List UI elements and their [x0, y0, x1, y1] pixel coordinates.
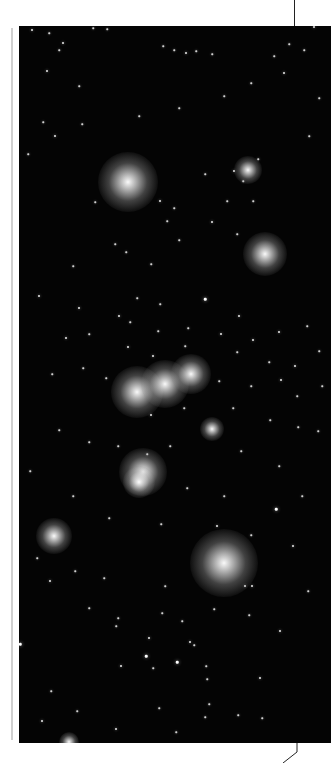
star [82, 367, 84, 369]
star [160, 523, 162, 525]
star [118, 315, 120, 317]
star [238, 315, 240, 317]
star [136, 297, 138, 299]
star [166, 220, 168, 222]
star [62, 42, 64, 44]
star [218, 380, 220, 382]
star [273, 55, 275, 57]
star [280, 379, 282, 381]
star [169, 445, 171, 447]
star [204, 716, 206, 718]
star [250, 385, 252, 387]
star [145, 655, 148, 658]
star [297, 426, 299, 428]
leader-line-top [294, 0, 295, 26]
star [157, 330, 159, 332]
star [72, 265, 74, 267]
star [159, 200, 161, 202]
star [159, 303, 161, 305]
star [19, 643, 21, 646]
bright-star [36, 518, 72, 554]
star [103, 577, 105, 579]
star [184, 345, 186, 347]
star [173, 207, 175, 209]
star [240, 450, 242, 452]
star [138, 115, 140, 117]
bright-star [190, 529, 258, 597]
star [36, 557, 38, 559]
star [175, 731, 177, 733]
star [54, 135, 56, 137]
star [150, 263, 152, 265]
star [318, 97, 320, 99]
star [42, 121, 44, 123]
bright-star [123, 466, 155, 498]
star [164, 585, 166, 587]
star [161, 612, 163, 614]
star [252, 200, 254, 202]
star [114, 243, 116, 245]
star [46, 70, 48, 72]
star [88, 441, 90, 443]
star [204, 173, 206, 175]
star [78, 85, 80, 87]
star [120, 665, 122, 667]
star [48, 32, 50, 34]
star [178, 107, 180, 109]
star [213, 608, 215, 610]
star [106, 28, 108, 30]
star [129, 321, 131, 323]
star [152, 667, 154, 669]
star [38, 295, 40, 297]
star [317, 430, 319, 432]
star [78, 307, 80, 309]
scanned-page [0, 0, 331, 763]
star [318, 350, 320, 352]
star [72, 495, 74, 497]
star [211, 53, 213, 55]
star [158, 707, 160, 709]
star [58, 49, 60, 51]
star [250, 82, 252, 84]
star [185, 52, 187, 54]
star [41, 720, 43, 722]
margin-rule [11, 28, 13, 740]
star [74, 570, 76, 572]
star [250, 534, 252, 536]
star [115, 728, 117, 730]
star [216, 525, 218, 527]
star [88, 607, 90, 609]
star [294, 365, 296, 367]
star [269, 419, 271, 421]
star [183, 407, 185, 409]
star [205, 665, 207, 667]
star [94, 201, 96, 203]
star [248, 614, 250, 616]
star [236, 233, 238, 235]
star [127, 346, 129, 348]
star [117, 445, 119, 447]
star [51, 373, 53, 375]
star [308, 135, 310, 137]
star [279, 630, 281, 632]
star [278, 465, 280, 467]
bright-star [171, 354, 211, 394]
star [313, 26, 315, 28]
bright-star [98, 152, 158, 212]
star [152, 355, 154, 357]
star [162, 45, 164, 47]
star [50, 690, 52, 692]
star [275, 508, 278, 511]
star [148, 637, 150, 639]
bright-star [234, 156, 262, 184]
star [301, 495, 303, 497]
star [181, 620, 183, 622]
star [125, 251, 127, 253]
star [31, 29, 33, 31]
star [236, 351, 238, 353]
star [108, 517, 110, 519]
star [186, 487, 188, 489]
star [92, 27, 94, 29]
star [223, 95, 225, 97]
bright-star [243, 232, 287, 276]
